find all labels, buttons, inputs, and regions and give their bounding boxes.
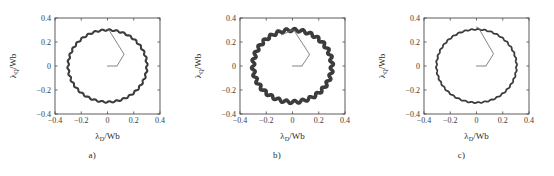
x-tick-label: 0.2 — [313, 116, 323, 125]
x-tick-label: 0.4 — [155, 116, 165, 125]
x-tick-label: 0.4 — [524, 116, 534, 125]
panel-subcaption: a) — [0, 150, 185, 160]
x-tick-label: 0.2 — [129, 116, 139, 125]
y-tick-label: 0.2 — [226, 38, 236, 47]
y-tick-label: 0.4 — [410, 14, 420, 23]
y-tick-label: 0.4 — [226, 14, 236, 23]
x-tick-label: 0.4 — [340, 116, 350, 125]
startup-transient-trace — [477, 27, 494, 66]
x-tick-label: −0.2 — [74, 116, 88, 125]
plot-area: −0.4−0.200.20.40.40.20−0.2−0.4λD/WbλQ/Wb — [185, 0, 370, 150]
x-axis-title: λD/Wb — [95, 131, 120, 142]
y-axis-title: λQ/Wb — [377, 53, 388, 78]
y-tick-label: −0.2 — [221, 86, 235, 95]
x-tick-label: 0 — [290, 116, 294, 125]
plot-panel-a: −0.4−0.200.20.40.40.20−0.2−0.4λD/WbλQ/Wb… — [0, 0, 185, 176]
panel-subcaption: c) — [369, 150, 554, 160]
y-tick-label: 0.2 — [410, 38, 420, 47]
y-tick-label: 0 — [47, 62, 51, 71]
startup-transient-trace — [107, 30, 123, 66]
flux-locus-chart: −0.4−0.200.20.40.40.20−0.2−0.4λD/WbλQ/Wb — [0, 0, 185, 150]
plot-panel-c: −0.4−0.200.20.40.40.20−0.2−0.4λD/WbλQ/Wb… — [369, 0, 554, 176]
y-tick-label: 0 — [416, 62, 420, 71]
startup-transient-trace — [281, 30, 309, 66]
plot-area: −0.4−0.200.20.40.40.20−0.2−0.4λD/WbλQ/Wb — [369, 0, 554, 150]
y-tick-label: 0.4 — [41, 14, 51, 23]
x-tick-label: −0.2 — [259, 116, 273, 125]
plot-area: −0.4−0.200.20.40.40.20−0.2−0.4λD/WbλQ/Wb — [0, 0, 185, 150]
y-tick-label: −0.4 — [221, 110, 235, 119]
flux-locus-chart: −0.4−0.200.20.40.40.20−0.2−0.4λD/WbλQ/Wb — [369, 0, 554, 150]
y-tick-label: −0.2 — [37, 86, 51, 95]
y-tick-label: −0.4 — [37, 110, 51, 119]
x-axis-title: λD/Wb — [465, 131, 490, 142]
y-axis-title: λQ/Wb — [8, 53, 19, 78]
plot-panel-b: −0.4−0.200.20.40.40.20−0.2−0.4λD/WbλQ/Wb… — [185, 0, 370, 176]
x-axis-title: λD/Wb — [280, 131, 305, 142]
y-tick-label: −0.2 — [406, 86, 420, 95]
x-tick-label: 0 — [475, 116, 479, 125]
y-tick-label: −0.4 — [406, 110, 420, 119]
x-tick-label: −0.2 — [443, 116, 457, 125]
flux-locus-figure: −0.4−0.200.20.40.40.20−0.2−0.4λD/WbλQ/Wb… — [0, 0, 554, 176]
y-tick-label: 0 — [232, 62, 236, 71]
y-axis-title: λQ/Wb — [193, 53, 204, 78]
flux-locus-chart: −0.4−0.200.20.40.40.20−0.2−0.4λD/WbλQ/Wb — [185, 0, 370, 150]
panel-subcaption: b) — [185, 150, 370, 160]
y-tick-label: 0.2 — [41, 38, 51, 47]
x-tick-label: 0 — [105, 116, 109, 125]
x-tick-label: 0.2 — [498, 116, 508, 125]
